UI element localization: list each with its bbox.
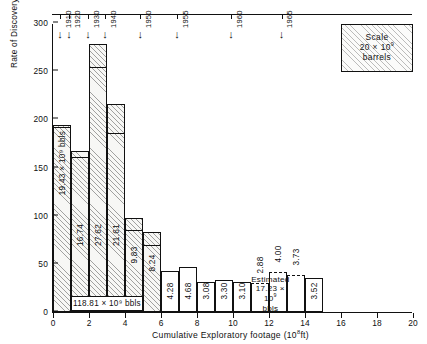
year-pointer-arrow: ↓ — [136, 30, 145, 39]
bar-value-label: 9.83 — [130, 246, 139, 263]
y-tick-mark — [53, 262, 58, 263]
bar-value-label: 19.43 × 10⁹ bbls — [58, 131, 67, 196]
histogram-bar — [287, 276, 305, 312]
bar-segment-divider — [143, 245, 161, 246]
year-pointer-arrow: ↓ — [84, 30, 93, 39]
year-pointer-arrow: ↓ — [173, 30, 182, 39]
estimated-annotation-line: 17.23 × 109 — [251, 284, 290, 303]
x-tick-label: 20 — [408, 312, 417, 328]
y-tick-mark — [53, 118, 58, 119]
bar-value-label: 21.61 — [112, 224, 121, 246]
x-tick-label: 14 — [300, 312, 309, 328]
bar-value-label: 3.10 — [238, 282, 247, 299]
plot-area: 19.43 × 10⁹ bbls16.7427.6221.619.838.244… — [52, 24, 412, 313]
x-axis-title: Cumulative Exploratory footage (108ft) — [0, 330, 427, 340]
y-tick-label: 250 — [33, 66, 53, 76]
year-tick-mark — [231, 15, 232, 19]
histogram-bar — [143, 232, 161, 312]
cumulative-discovered-annotation: 118.81 × 10⁹ bbls — [71, 296, 143, 311]
bar-segment-divider — [107, 133, 125, 134]
year-pointer-arrow: ↓ — [101, 30, 110, 39]
y-tick-mark — [53, 166, 58, 167]
x-tick-label: 0 — [51, 312, 56, 328]
bar-value-label: 4.28 — [166, 282, 175, 299]
bar-value-label: 3.73 — [292, 249, 301, 266]
year-tick-mark — [105, 15, 106, 19]
x-tick-label: 16 — [336, 312, 345, 328]
year-tick-mark — [60, 15, 61, 19]
year-tick-mark — [140, 15, 141, 19]
bar-value-label: 2.88 — [256, 256, 265, 273]
x-tick-label: 8 — [195, 312, 200, 328]
x-tick-label: 18 — [372, 312, 381, 328]
chart-figure: 19101920193019401950195519601965 19.43 ×… — [0, 0, 427, 344]
histogram-bar — [107, 104, 125, 312]
year-tick-mark — [282, 15, 283, 19]
y-tick-label: 100 — [33, 211, 53, 221]
bar-segment-divider — [125, 230, 143, 231]
year-pointer-arrow: ↓ — [65, 30, 74, 39]
y-axis-title: Rate of Discovery dQ/dh (bbls/ ft drille… — [9, 0, 19, 68]
year-tick-mark — [69, 15, 70, 19]
y-tick-label: 300 — [33, 18, 53, 28]
bar-value-label: 3.08 — [202, 282, 211, 299]
year-pointer-arrow: ↓ — [56, 30, 65, 39]
year-pointer-arrow: ↓ — [277, 30, 286, 39]
histogram-bar — [89, 44, 107, 312]
x-tick-label: 12 — [264, 312, 273, 328]
x-tick-label: 2 — [87, 312, 92, 328]
y-tick-mark — [53, 214, 58, 215]
bar-value-label: 8.24 — [148, 254, 157, 271]
estimated-annotation-line: Estimated — [251, 275, 289, 285]
bar-segment-divider — [71, 157, 89, 158]
x-tick-label: 4 — [123, 312, 128, 328]
bar-segment-divider — [53, 127, 71, 128]
bar-value-label: 27.62 — [94, 224, 103, 246]
bar-segment-divider — [89, 67, 107, 68]
scale-legend-box: Scale20 × 109barrels — [341, 24, 413, 72]
y-tick-label: 200 — [33, 114, 53, 124]
year-axis: 19101920193019401950195519601965 — [52, 14, 412, 15]
estimated-future-annotation: Estimated17.23 × 109bbls — [251, 278, 290, 310]
x-tick-label: 10 — [228, 312, 237, 328]
bar-value-label: 3.30 — [220, 282, 229, 299]
legend-line: barrels — [363, 53, 391, 63]
x-tick-label: 6 — [159, 312, 164, 328]
bar-value-label: 3.52 — [310, 282, 319, 299]
y-tick-label: 50 — [38, 259, 53, 269]
bar-value-label: 16.74 — [76, 224, 85, 246]
year-pointer-arrow: ↓ — [227, 30, 236, 39]
year-tick-mark — [177, 15, 178, 19]
y-tick-mark — [53, 70, 58, 71]
plot-inner: 19.43 × 10⁹ bbls16.7427.6221.619.838.244… — [53, 24, 412, 312]
bar-value-label: 4.68 — [184, 282, 193, 299]
year-tick-mark — [88, 15, 89, 19]
y-tick-mark — [53, 22, 58, 23]
bar-value-label: 4.00 — [274, 246, 283, 263]
y-tick-label: 150 — [33, 163, 53, 173]
